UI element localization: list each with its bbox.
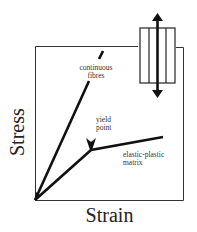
fibres-label: continuous fibres xyxy=(74,64,118,80)
x-axis-label: Strain xyxy=(0,204,197,227)
matrix-label-line2: matrix xyxy=(123,159,164,167)
yield-point-label: yield point xyxy=(96,116,111,132)
matrix-label: elastic-plastic matrix xyxy=(123,151,164,167)
matrix-curve xyxy=(35,137,163,200)
y-axis-label: Stress xyxy=(6,108,29,156)
yield-label-line2: point xyxy=(96,124,111,132)
arrow-down-icon xyxy=(152,90,163,98)
fibres-label-line2: fibres xyxy=(74,72,118,80)
arrow-up-icon xyxy=(152,13,163,21)
fibre-bundle-inset xyxy=(140,13,175,98)
